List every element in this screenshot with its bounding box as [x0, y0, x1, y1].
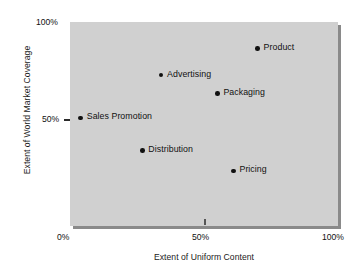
x-axis-title: Extent of Uniform Content [70, 252, 338, 262]
data-point-label: Product [264, 42, 295, 52]
plot-frame-shadow-bottom [73, 226, 341, 229]
y-axis-tick-label-50: 50% [42, 114, 59, 124]
data-point-marker [255, 46, 260, 51]
data-point-marker [140, 148, 145, 153]
y-tick-mark-50 [64, 119, 70, 121]
data-point-label: Advertising [167, 69, 211, 79]
plot-area [70, 22, 338, 226]
data-point-label: Distribution [148, 144, 193, 154]
x-tick-mark-50 [204, 219, 206, 225]
data-point-marker [231, 169, 236, 174]
x-axis-tick-label-0: 0% [57, 232, 69, 242]
plot-frame-shadow-right [338, 25, 341, 229]
data-point-label: Sales Promotion [87, 111, 152, 121]
x-axis-tick-label-50: 50% [192, 232, 209, 242]
y-axis-title: Extent of World Market Coverage [22, 10, 32, 210]
data-point-label: Packaging [223, 87, 265, 97]
data-point-marker [78, 116, 83, 121]
data-point-label: Pricing [239, 164, 266, 174]
x-axis-tick-label-100: 100% [322, 232, 344, 242]
scatter-chart: Extent of World Market Coverage 100% 50%… [0, 0, 362, 274]
data-point-marker [215, 91, 220, 96]
y-axis-tick-label-100: 100% [36, 17, 58, 27]
